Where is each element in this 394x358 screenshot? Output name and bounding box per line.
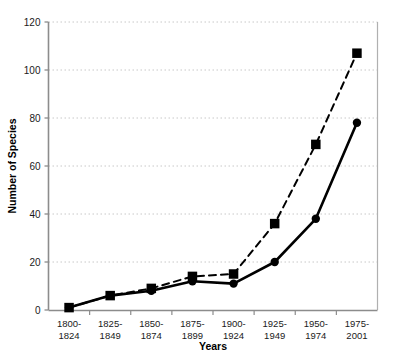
x-axis-title: Years bbox=[199, 340, 227, 352]
x-category-label-7: 1975-2001 bbox=[345, 318, 369, 341]
y-tick-label-100: 100 bbox=[24, 65, 41, 76]
y-tick-label-60: 60 bbox=[29, 161, 41, 172]
x-category-label-2: 1850-1874 bbox=[139, 318, 163, 341]
data-point-dashed-series-4 bbox=[229, 269, 239, 279]
species-over-time-line-chart: 020406080100120 1800-18241825-18491850-1… bbox=[0, 0, 394, 358]
x-category-label-1: 1825-1849 bbox=[98, 318, 122, 341]
data-point-dashed-series-7 bbox=[352, 48, 362, 58]
data-point-dashed-series-2 bbox=[147, 284, 157, 294]
data-point-dashed-series-3 bbox=[188, 272, 198, 282]
data-point-solid-series-7 bbox=[353, 119, 361, 127]
y-tick-label-20: 20 bbox=[29, 257, 41, 268]
x-category-label-3: 1875-1899 bbox=[180, 318, 204, 341]
x-category-label-6: 1950-1974 bbox=[304, 318, 328, 341]
data-point-solid-series-6 bbox=[312, 215, 320, 223]
y-tick-label-40: 40 bbox=[29, 209, 41, 220]
data-point-solid-series-5 bbox=[270, 258, 278, 266]
y-tick-label-80: 80 bbox=[29, 113, 41, 124]
data-point-dashed-series-1 bbox=[105, 291, 115, 301]
data-point-dashed-series-6 bbox=[311, 140, 321, 150]
x-category-label-0: 1800-1824 bbox=[57, 318, 81, 341]
y-axis-title: Number of Species bbox=[6, 118, 18, 213]
x-category-label-5: 1925-1949 bbox=[263, 318, 287, 341]
data-point-dashed-series-0 bbox=[64, 303, 74, 313]
chart-background bbox=[0, 0, 394, 358]
x-category-label-4: 1900-1924 bbox=[221, 318, 245, 341]
data-point-dashed-series-5 bbox=[270, 219, 280, 229]
y-tick-label-120: 120 bbox=[24, 17, 41, 28]
data-point-solid-series-4 bbox=[229, 279, 237, 287]
chart-container: 020406080100120 1800-18241825-18491850-1… bbox=[0, 0, 394, 358]
y-tick-label-0: 0 bbox=[35, 305, 41, 316]
